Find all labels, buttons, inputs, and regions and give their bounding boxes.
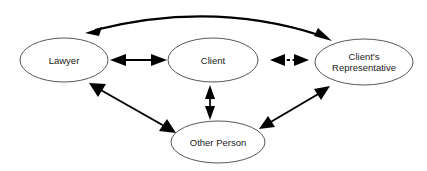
edge-lawyer-client <box>110 54 167 66</box>
arrowhead-lawyer-client-right <box>151 54 167 66</box>
arrowhead-dashed-right <box>294 54 309 66</box>
arrowhead-client-other-top <box>205 85 215 99</box>
edge-client-other-person <box>205 85 215 120</box>
relationship-diagram: Lawyer Client Client's Representative Ot… <box>0 0 427 171</box>
arrowhead-arc-right <box>314 28 332 41</box>
node-client[interactable]: Client <box>168 38 258 82</box>
node-client-representative[interactable]: Client's Representative <box>315 39 413 85</box>
arrowhead-client-other-bottom <box>205 106 215 120</box>
node-lawyer-shape[interactable] <box>20 38 108 82</box>
edge-client-representative-other-person-path <box>269 93 320 123</box>
arrowhead-rep-other-top <box>314 86 330 100</box>
edge-lawyer-client-representative <box>85 16 332 41</box>
edge-client-representative-other-person <box>259 86 330 129</box>
arrowhead-dashed-left <box>270 54 285 66</box>
diagram-canvas: Lawyer Client Client's Representative Ot… <box>0 0 427 171</box>
node-client-shape[interactable] <box>168 38 258 82</box>
node-client-representative-label-line2: Representative <box>332 62 396 73</box>
edge-lawyer-other-person <box>89 83 176 133</box>
node-other-person[interactable]: Other Person <box>171 121 265 163</box>
arrowhead-lawyer-other-left <box>89 83 106 97</box>
node-client-representative-label-line1: Client's <box>349 51 380 62</box>
node-lawyer[interactable]: Lawyer <box>20 38 108 82</box>
arrowhead-arc-left <box>85 27 102 36</box>
node-other-person-shape[interactable] <box>171 121 265 163</box>
arrowhead-lawyer-client-left <box>110 54 126 66</box>
edge-client-client-representative <box>270 54 309 66</box>
arrowhead-rep-other-bottom <box>259 116 275 129</box>
edge-lawyer-other-person-path <box>99 89 166 127</box>
arrowhead-lawyer-other-right <box>159 119 176 133</box>
edge-lawyer-client-representative-path <box>95 16 322 36</box>
